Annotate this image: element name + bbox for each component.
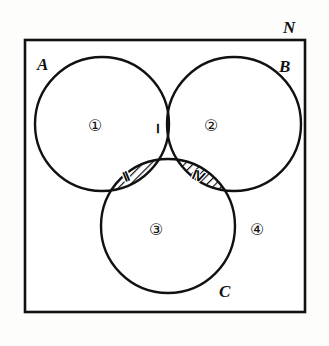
venn-diagram-figure: N A B C ① ② ③ ④ Ⅰ Ⅱ Ⅳ — [0, 0, 329, 346]
set-label-c: C — [219, 283, 230, 300]
region-label-a-and-b: Ⅰ — [156, 122, 160, 135]
region-label-c-only: ③ — [149, 222, 163, 238]
region-label-outside: ④ — [250, 222, 264, 238]
universal-set-rectangle — [25, 40, 305, 312]
region-label-b-only: ② — [204, 118, 218, 134]
set-label-a: A — [37, 56, 48, 73]
venn-diagram-canvas — [0, 0, 329, 346]
region-label-a-only: ① — [88, 118, 102, 134]
universal-set-label: N — [283, 19, 295, 36]
set-label-b: B — [279, 58, 290, 75]
